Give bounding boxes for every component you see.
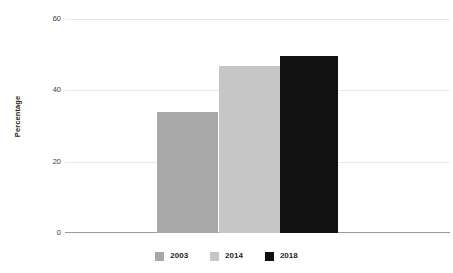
legend-item-2003[interactable]: 2003 xyxy=(155,252,188,261)
legend: 2003 2014 2018 xyxy=(0,246,453,266)
legend-swatch-icon-2018 xyxy=(265,252,274,261)
legend-label-2018: 2018 xyxy=(280,252,298,260)
legend-swatch-icon-2003 xyxy=(155,252,164,261)
y-tick-60: 60 xyxy=(35,15,61,23)
bar-2018[interactable] xyxy=(280,56,338,234)
legend-label-2003: 2003 xyxy=(170,252,188,260)
y-tick-0: 0 xyxy=(35,229,61,237)
y-axis-title-label: Percentage xyxy=(14,96,23,137)
y-tick-40: 40 xyxy=(35,86,61,94)
bar-group xyxy=(65,19,450,233)
y-axis-tick-labels: 60 40 20 0 xyxy=(31,19,61,233)
legend-item-2014[interactable]: 2014 xyxy=(210,252,243,261)
bar-2003[interactable] xyxy=(157,112,218,233)
legend-label-2014: 2014 xyxy=(225,252,243,260)
legend-item-2018[interactable]: 2018 xyxy=(265,252,298,261)
legend-swatch-icon-2014 xyxy=(210,252,219,261)
bar-2014[interactable] xyxy=(219,66,280,233)
bar-chart: Percentage 60 40 20 0 2003 2014 2018 xyxy=(0,0,453,273)
y-tick-20: 20 xyxy=(35,158,61,166)
